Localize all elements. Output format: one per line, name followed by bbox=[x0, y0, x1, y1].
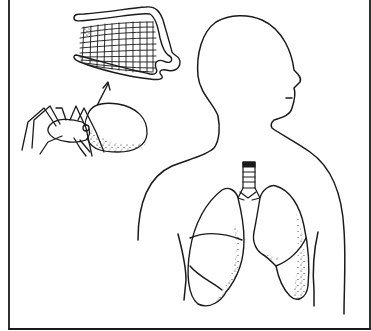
spider bbox=[22, 103, 147, 156]
book-lung-detail bbox=[74, 7, 180, 80]
human-lung-left bbox=[253, 186, 308, 300]
human-lung-right bbox=[188, 188, 244, 305]
trachea bbox=[238, 162, 260, 200]
human-silhouette bbox=[138, 16, 345, 314]
diagram-figure bbox=[0, 0, 371, 331]
